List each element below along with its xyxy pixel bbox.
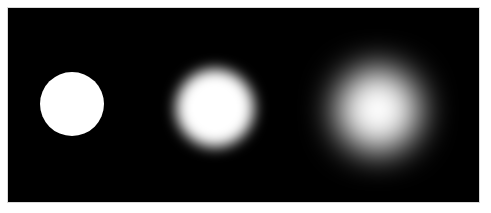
blob-1-sharp: [40, 72, 104, 136]
figure-root: [0, 0, 491, 213]
blob-2-medium-blur: [176, 69, 254, 147]
blob-3-heavy-blur: [336, 68, 420, 152]
image-panel: [7, 7, 480, 203]
